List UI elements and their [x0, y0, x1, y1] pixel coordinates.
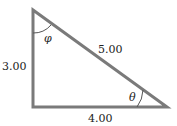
theta-angle-label: θ [129, 91, 136, 104]
theta-angle-arc [137, 90, 143, 107]
triangle-diagram: 3.00 5.00 4.00 φ θ [0, 0, 177, 126]
hypotenuse-label: 5.00 [98, 43, 123, 56]
phi-angle-label: φ [44, 32, 52, 45]
vertical-side-label: 3.00 [2, 60, 27, 73]
triangle-shape [33, 10, 167, 107]
horizontal-side-label: 4.00 [88, 112, 113, 125]
